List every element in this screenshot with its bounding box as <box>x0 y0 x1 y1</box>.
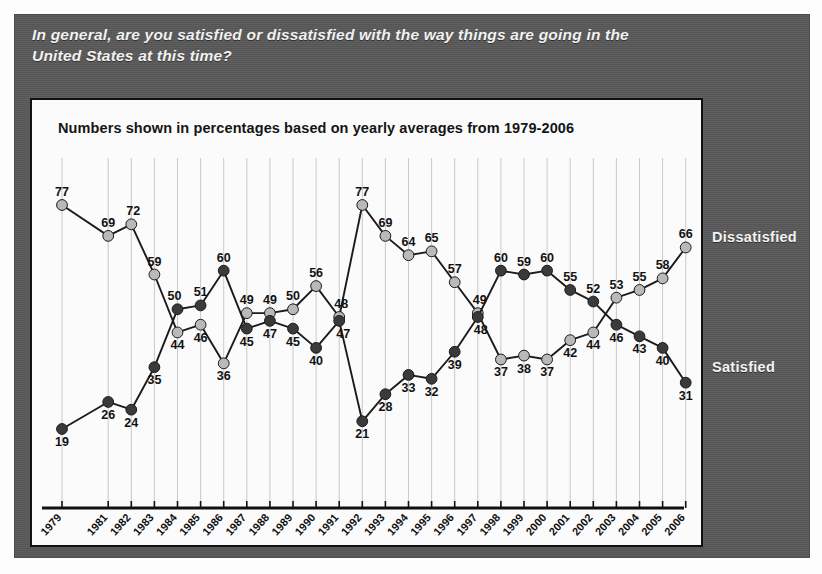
data-point <box>657 273 668 284</box>
x-axis-label: 1991 <box>315 511 340 537</box>
x-axis-label: 2004 <box>616 511 642 538</box>
data-point <box>288 304 299 315</box>
data-label: 52 <box>586 282 600 296</box>
data-point <box>126 219 137 230</box>
data-label: 57 <box>448 262 462 276</box>
data-point <box>195 319 206 330</box>
x-axis-label: 2001 <box>546 511 571 537</box>
data-label: 48 <box>474 323 488 337</box>
data-label: 24 <box>124 416 138 430</box>
data-point <box>496 354 507 365</box>
data-label: 40 <box>656 354 670 368</box>
x-axis-label: 1984 <box>154 511 180 538</box>
x-axis-label: 1986 <box>200 511 225 537</box>
screenshot-root: In general, are you satisfied or dissati… <box>0 0 822 574</box>
data-point <box>680 377 691 388</box>
x-axis-label: 1979 <box>38 511 63 537</box>
data-label: 26 <box>101 408 115 422</box>
data-label: 65 <box>425 231 439 245</box>
data-point <box>103 230 114 241</box>
x-axis-label: 1999 <box>500 511 525 537</box>
data-point <box>519 350 530 361</box>
x-axis-label: 1992 <box>338 511 363 537</box>
data-point <box>195 300 206 311</box>
x-axis-label: 2000 <box>523 511 548 537</box>
data-label: 32 <box>425 385 439 399</box>
data-point <box>311 342 322 353</box>
data-label: 40 <box>309 354 323 368</box>
data-point <box>588 296 599 307</box>
data-label: 37 <box>494 365 508 379</box>
data-label: 19 <box>55 435 69 449</box>
data-label: 43 <box>633 342 647 356</box>
data-point <box>565 285 576 296</box>
data-point <box>357 416 368 427</box>
x-axis-label: 1990 <box>292 511 317 537</box>
x-axis-label: 2003 <box>593 511 618 537</box>
x-axis-label: 1993 <box>362 511 387 537</box>
data-point <box>611 319 622 330</box>
data-label: 69 <box>101 216 115 230</box>
data-label: 46 <box>194 331 208 345</box>
data-label: 33 <box>402 381 416 395</box>
data-label: 44 <box>586 338 600 352</box>
data-label: 45 <box>240 335 254 349</box>
question-title: In general, are you satisfied or dissati… <box>32 24 672 66</box>
data-point <box>218 358 229 369</box>
data-point <box>519 269 530 280</box>
data-point <box>334 315 345 326</box>
data-label: 50 <box>168 289 182 303</box>
x-axis-labels: 1979198119821983198419851986198719881989… <box>38 511 687 538</box>
data-point <box>149 362 160 373</box>
data-point <box>403 250 414 261</box>
data-label: 50 <box>286 289 300 303</box>
data-label: 49 <box>473 293 487 307</box>
data-label: 42 <box>563 346 577 360</box>
data-point <box>265 315 276 326</box>
x-axis-label: 2005 <box>639 511 664 537</box>
x-axis-label: 1996 <box>431 511 456 537</box>
data-point <box>634 285 645 296</box>
data-label: 58 <box>656 258 670 272</box>
data-point <box>311 281 322 292</box>
x-axis-label: 1988 <box>246 511 271 537</box>
legend-label-dissatisfied: Dissatisfied <box>712 229 797 245</box>
data-point <box>103 397 114 408</box>
x-axis-label: 1989 <box>269 511 294 537</box>
data-point <box>496 265 507 276</box>
chart-container: Numbers shown in percentages based on ye… <box>30 98 703 547</box>
data-label: 46 <box>609 331 623 345</box>
x-axis-label: 1983 <box>131 511 156 537</box>
data-point <box>657 342 668 353</box>
data-label: 55 <box>563 270 577 284</box>
data-point <box>542 354 553 365</box>
data-point <box>542 265 553 276</box>
data-label: 51 <box>194 285 208 299</box>
data-label: 49 <box>240 293 254 307</box>
legend-label-satisfied: Satisfied <box>712 359 775 375</box>
x-axis-label: 1998 <box>477 511 502 537</box>
x-axis-label: 2006 <box>662 511 687 537</box>
data-point <box>680 242 691 253</box>
data-point <box>588 327 599 338</box>
data-label: 38 <box>517 362 531 376</box>
data-label: 28 <box>378 400 392 414</box>
data-point <box>472 312 483 323</box>
data-point <box>241 323 252 334</box>
x-axis-label: 1985 <box>177 511 202 537</box>
data-label: 59 <box>517 255 531 269</box>
data-label: 72 <box>126 204 140 218</box>
data-label: 21 <box>355 427 369 441</box>
data-label: 48 <box>334 297 348 311</box>
data-label: 64 <box>402 235 416 249</box>
data-label: 37 <box>540 365 554 379</box>
data-point <box>611 292 622 303</box>
data-point <box>57 424 68 435</box>
data-point <box>449 346 460 357</box>
data-label: 44 <box>171 338 185 352</box>
data-point <box>380 389 391 400</box>
x-axis-label: 2002 <box>569 511 594 537</box>
data-label: 77 <box>55 185 69 199</box>
data-label: 36 <box>217 369 231 383</box>
data-label: 45 <box>286 335 300 349</box>
